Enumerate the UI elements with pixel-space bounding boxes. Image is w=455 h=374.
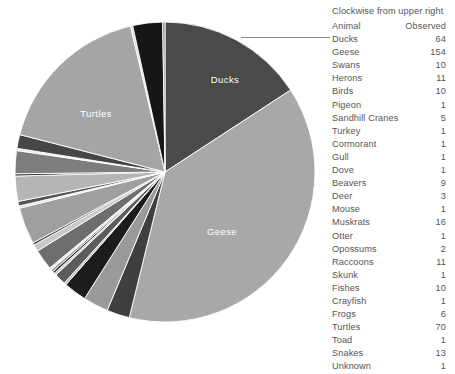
legend-cell-animal: Unknown	[332, 360, 402, 373]
legend-cell-animal: Birds	[332, 85, 402, 98]
legend-cell-animal: Crayfish	[332, 295, 402, 308]
legend-cell-animal: Pigeon	[332, 99, 402, 112]
legend-row: Ducks64	[332, 33, 453, 46]
legend-cell-observed: 10	[402, 59, 453, 72]
legend-cell-observed: 1	[402, 360, 453, 373]
legend-row: Geese154	[332, 46, 453, 59]
legend-cell-observed: 1	[402, 295, 453, 308]
legend-row: Turtles70	[332, 321, 453, 334]
legend-cell-observed: 1	[402, 269, 453, 282]
legend-body: Ducks64Geese154Swans10Herons11Birds10Pig…	[332, 33, 453, 373]
legend-row: Sandhill Cranes5	[332, 112, 453, 125]
legend-cell-observed: 11	[402, 72, 453, 85]
legend-row: Crayfish1	[332, 295, 453, 308]
legend-cell-observed: 11	[402, 256, 453, 269]
legend-table: Animal Observed Ducks64Geese154Swans10He…	[332, 20, 453, 374]
legend-cell-observed: 1	[402, 138, 453, 151]
legend-cell-observed: 1	[402, 230, 453, 243]
legend-row: Turkey1	[332, 125, 453, 138]
ducks-leader-line	[241, 37, 330, 38]
legend-cell-observed: 2	[402, 243, 453, 256]
legend-row: Mouse1	[332, 203, 453, 216]
slice-label-geese: Geese	[207, 226, 237, 237]
legend-header-row: Animal Observed	[332, 20, 453, 33]
legend-cell-animal: Frogs	[332, 308, 402, 321]
legend-cell-observed: 1	[402, 164, 453, 177]
legend-cell-observed: 10	[402, 282, 453, 295]
legend-row: Beavers9	[332, 177, 453, 190]
legend-cell-observed: 6	[402, 308, 453, 321]
legend-row: Dove1	[332, 164, 453, 177]
pie-chart: Ducks Geese Turtles	[0, 0, 330, 374]
legend-row: Opossums2	[332, 243, 453, 256]
slice-label-turtles: Turtles	[80, 108, 111, 119]
pie-chart-svg: Ducks Geese Turtles	[0, 0, 330, 374]
legend-header-observed: Observed	[402, 20, 453, 33]
legend-cell-animal: Beavers	[332, 177, 402, 190]
legend-cell-animal: Swans	[332, 59, 402, 72]
legend-cell-animal: Deer	[332, 190, 402, 203]
legend-cell-animal: Turkey	[332, 125, 402, 138]
legend-row: Birds10	[332, 85, 453, 98]
legend-row: Raccoons11	[332, 256, 453, 269]
legend-row: Fishes10	[332, 282, 453, 295]
legend-cell-animal: Opossums	[332, 243, 402, 256]
legend-cell-observed: 1	[402, 203, 453, 216]
legend-panel: Clockwise from upper right Animal Observ…	[330, 0, 455, 374]
legend-cell-animal: Toad	[332, 334, 402, 347]
pie-slice-group	[15, 22, 315, 322]
legend-row: Cormorant1	[332, 138, 453, 151]
legend-cell-animal: Dove	[332, 164, 402, 177]
legend-cell-observed: 64	[402, 33, 453, 46]
legend-row: Otter1	[332, 230, 453, 243]
legend-cell-observed: 1	[402, 99, 453, 112]
legend-cell-observed: 154	[402, 46, 453, 59]
legend-row: Herons11	[332, 72, 453, 85]
slice-label-ducks: Ducks	[211, 74, 239, 85]
legend-row: Snakes13	[332, 347, 453, 360]
legend-cell-animal: Skunk	[332, 269, 402, 282]
legend-row: Swans10	[332, 59, 453, 72]
legend-cell-animal: Herons	[332, 72, 402, 85]
legend-cell-observed: 9	[402, 177, 453, 190]
legend-cell-observed: 16	[402, 216, 453, 229]
legend-cell-animal: Geese	[332, 46, 402, 59]
legend-cell-observed: 13	[402, 347, 453, 360]
legend-row: Gull1	[332, 151, 453, 164]
legend-row: Deer3	[332, 190, 453, 203]
legend-cell-observed: 1	[402, 334, 453, 347]
legend-row: Pigeon1	[332, 99, 453, 112]
legend-title: Clockwise from upper right	[330, 0, 455, 20]
legend-row: Toad1	[332, 334, 453, 347]
legend-cell-animal: Gull	[332, 151, 402, 164]
legend-cell-animal: Sandhill Cranes	[332, 112, 402, 125]
legend-cell-animal: Ducks	[332, 33, 402, 46]
legend-cell-observed: 1	[402, 125, 453, 138]
legend-row: Muskrats16	[332, 216, 453, 229]
legend-cell-observed: 1	[402, 151, 453, 164]
legend-cell-observed: 10	[402, 85, 453, 98]
legend-cell-animal: Raccoons	[332, 256, 402, 269]
legend-cell-animal: Snakes	[332, 347, 402, 360]
legend-header-animal: Animal	[332, 20, 402, 33]
legend-cell-observed: 5	[402, 112, 453, 125]
legend-row: Unknown1	[332, 360, 453, 373]
legend-cell-animal: Cormorant	[332, 138, 402, 151]
legend-row: Frogs6	[332, 308, 453, 321]
legend-cell-animal: Mouse	[332, 203, 402, 216]
legend-cell-animal: Muskrats	[332, 216, 402, 229]
legend-cell-observed: 70	[402, 321, 453, 334]
legend-row: Skunk1	[332, 269, 453, 282]
legend-cell-observed: 3	[402, 190, 453, 203]
legend-cell-animal: Otter	[332, 230, 402, 243]
legend-cell-animal: Fishes	[332, 282, 402, 295]
legend-cell-animal: Turtles	[332, 321, 402, 334]
